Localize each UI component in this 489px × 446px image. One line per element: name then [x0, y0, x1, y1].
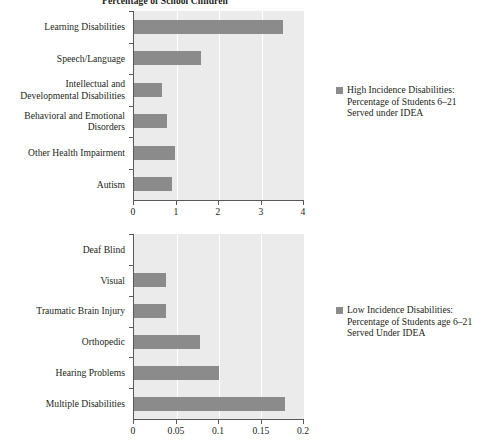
x-axis-tick	[303, 420, 304, 424]
x-axis-tick	[261, 420, 262, 424]
x-axis-tick-label: 0.2	[297, 425, 309, 436]
legend-label: Low Incidence Disabilities: Percentage o…	[347, 304, 472, 339]
y-axis-tick	[129, 11, 133, 12]
category-label: Orthopedic	[0, 336, 127, 347]
plot-area	[133, 234, 304, 419]
bar	[134, 146, 175, 160]
category-label: Traumatic Brain Injury	[0, 305, 127, 316]
y-axis-tick	[129, 327, 133, 328]
bar	[134, 51, 201, 65]
bar	[134, 273, 166, 287]
x-axis-tick-label: 3	[259, 206, 264, 217]
category-label: Hearing Problems	[0, 367, 127, 378]
bar	[134, 335, 200, 349]
bar	[134, 114, 167, 128]
x-axis-tick	[218, 201, 219, 205]
y-axis-tick	[129, 388, 133, 389]
x-axis-tick-label: 1	[174, 206, 179, 217]
gridline	[304, 11, 305, 200]
x-axis-tick-label: 0	[131, 206, 136, 217]
category-label: Intellectual and Developmental Disabilit…	[0, 78, 127, 101]
gridline	[177, 234, 178, 419]
category-label: Autism	[0, 179, 127, 190]
x-axis-tick	[218, 420, 219, 424]
bar	[134, 304, 166, 318]
bar	[134, 366, 219, 380]
category-label: Behavioral and Emotional Disorders	[0, 110, 127, 133]
gridline	[177, 11, 178, 200]
category-label: Deaf Blind	[0, 244, 127, 255]
gridline	[219, 11, 220, 200]
bar	[134, 397, 285, 411]
bar	[134, 20, 283, 34]
y-axis-tick	[129, 137, 133, 138]
y-axis-tick	[129, 296, 133, 297]
high-incidence-chart: Percentage of School Children Learning D…	[0, 0, 489, 228]
chart-legend: High Incidence Disabilities: Percentage …	[336, 84, 488, 119]
y-axis-tick	[129, 106, 133, 107]
chart-legend: Low Incidence Disabilities: Percentage o…	[336, 304, 488, 339]
y-axis-tick	[129, 357, 133, 358]
x-axis-tick	[303, 201, 304, 205]
category-label: Learning Disabilities	[0, 21, 127, 32]
category-label: Multiple Disabilities	[0, 398, 127, 409]
y-axis-tick	[129, 265, 133, 266]
category-label: Other Health Impairment	[0, 147, 127, 158]
y-axis-tick	[129, 43, 133, 44]
gridline	[262, 11, 263, 200]
x-axis-tick	[133, 420, 134, 424]
category-label: Visual	[0, 275, 127, 286]
x-axis-tick-label: 0	[131, 425, 136, 436]
x-axis-tick	[261, 201, 262, 205]
x-axis-tick-label: 0.05	[168, 425, 185, 436]
x-axis-tick	[176, 420, 177, 424]
y-axis-tick	[129, 169, 133, 170]
y-axis-tick	[129, 74, 133, 75]
x-axis-tick-label: 0.1	[212, 425, 224, 436]
gridline	[261, 234, 262, 419]
bar	[134, 177, 172, 191]
legend-swatch-icon	[336, 307, 343, 314]
x-axis-tick	[133, 201, 134, 205]
x-axis-tick-label: 0.15	[253, 425, 270, 436]
legend-swatch-icon	[336, 87, 343, 94]
y-axis-tick	[129, 234, 133, 235]
gridline	[304, 234, 305, 419]
plot-area	[133, 11, 304, 200]
gridline	[219, 234, 220, 419]
x-axis-tick	[176, 201, 177, 205]
bar	[134, 83, 162, 97]
x-axis-tick-label: 4	[301, 206, 306, 217]
chart-title: Percentage of School Children	[0, 0, 330, 6]
x-axis-tick-label: 2	[216, 206, 221, 217]
category-label: Speech/Language	[0, 53, 127, 64]
legend-label: High Incidence Disabilities: Percentage …	[347, 84, 457, 119]
low-incidence-chart: Deaf BlindVisualTraumatic Brain InjuryOr…	[0, 228, 489, 446]
